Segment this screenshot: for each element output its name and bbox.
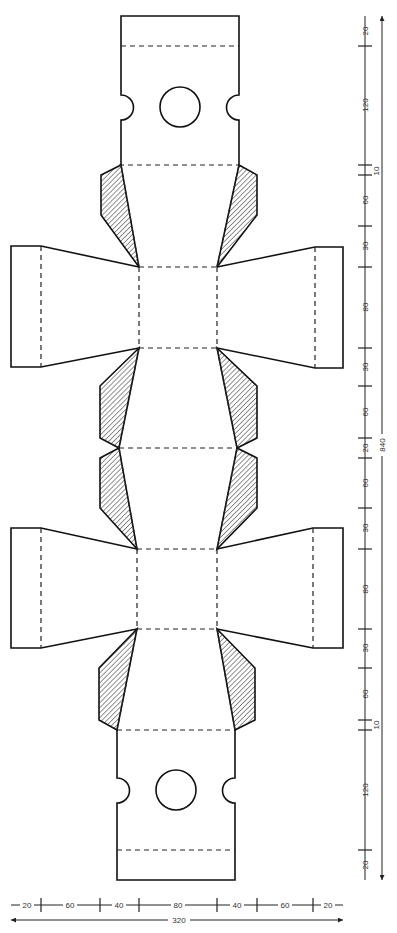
dim-label: 20	[361, 443, 370, 452]
dim-label: 80	[174, 901, 183, 910]
lower-side-panel	[137, 549, 217, 629]
lower-left-wing	[11, 528, 137, 648]
dim-label: 10	[372, 720, 381, 729]
dim-label: 80	[361, 584, 370, 593]
dim-label: 30	[361, 643, 370, 652]
dim-label: 120	[361, 783, 370, 797]
glue-flaps-lower	[99, 629, 255, 730]
finger-hole-icon	[156, 770, 196, 810]
glue-flaps-upper	[101, 165, 257, 267]
dim-label: 60	[281, 901, 290, 910]
horizontal-dimension-chain: 20 60 40 80 40 60 20 320	[11, 898, 343, 925]
lower-right-wing	[217, 528, 343, 648]
dim-label: 60	[361, 689, 370, 698]
dim-label: 20	[324, 901, 333, 910]
dim-label: 60	[361, 195, 370, 204]
total-height-label: 840	[378, 438, 387, 452]
upper-right-wing	[217, 247, 343, 368]
dim-label: 60	[361, 407, 370, 416]
dim-label: 60	[361, 478, 370, 487]
finger-hole-icon	[160, 87, 200, 127]
dim-label: 20	[361, 26, 370, 35]
dim-label: 30	[361, 362, 370, 371]
dim-label: 120	[361, 98, 370, 112]
upper-side-panel	[139, 267, 217, 348]
dim-label: 20	[361, 860, 370, 869]
dim-label: 40	[233, 901, 242, 910]
dim-label: 10	[372, 166, 381, 175]
dim-label: 30	[361, 523, 370, 532]
box-template-diagram: 20 120 10 60 30 80 30 60 20 60 30 80 30 …	[0, 0, 397, 933]
vertical-dimension-chain: 20 120 10 60 30 80 30 60 20 60 30 80 30 …	[358, 16, 388, 880]
lower-lid-tab	[117, 730, 235, 880]
dim-label: 60	[66, 901, 75, 910]
glue-flaps-middle	[100, 348, 257, 549]
upper-lid-tab	[121, 16, 239, 165]
dim-label: 40	[115, 901, 124, 910]
dim-label: 80	[361, 302, 370, 311]
dim-label: 20	[23, 901, 32, 910]
dim-label: 30	[361, 241, 370, 250]
upper-left-wing	[11, 246, 139, 367]
total-width-label: 320	[172, 916, 186, 925]
